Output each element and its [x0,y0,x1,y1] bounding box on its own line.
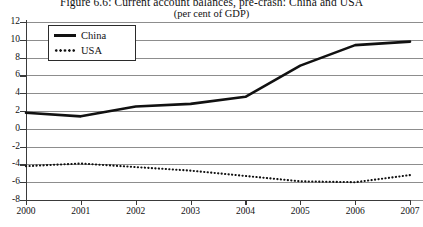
legend-item-china: China [54,30,106,41]
series-line-usa [26,164,410,183]
legend-item-label: USA [81,45,102,56]
dotted-line-swatch [54,45,76,56]
legend-box: China USA [48,25,136,61]
legend-item-usa: USA [54,45,102,56]
legend-item-label: China [81,30,106,41]
figure-container: Figure 6.6: Current account balances, pr… [0,0,423,227]
solid-line-swatch [54,30,76,41]
